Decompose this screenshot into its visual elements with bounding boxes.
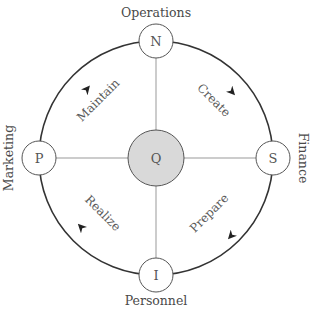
node-right: S [256,141,290,175]
label-marketing: Marketing [1,125,16,191]
label-finance: Finance [296,133,310,184]
svg-text:N: N [150,34,161,49]
center-node: Q [128,130,184,186]
svg-text:P: P [35,151,44,166]
quadrant-maintain: Maintain [74,76,123,125]
quadrant-create: Create [194,81,233,120]
label-personnel: Personnel [125,293,188,308]
svg-text:I: I [153,268,158,283]
node-left: P [22,141,56,175]
arrow-icon [76,89,87,102]
label-operations: Operations [121,5,191,20]
svg-text:S: S [269,151,278,166]
quadrant-prepare: Prepare [187,191,231,235]
arrow-icon [81,227,92,238]
node-top: N [139,24,173,58]
quadrant-realize: Realize [82,193,123,234]
arrow-icon [221,80,232,92]
cycle-diagram: Q N S I P Operations Personnel Marketing… [0,0,310,315]
node-bottom: I [139,258,173,292]
svg-text:Q: Q [151,151,162,166]
arrow-icon [231,224,242,236]
